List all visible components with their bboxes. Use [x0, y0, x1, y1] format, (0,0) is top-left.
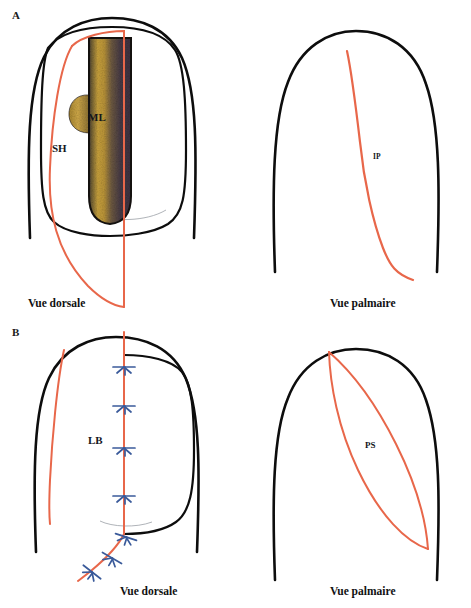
chevron-mark-icon [113, 367, 135, 375]
chevron-mark-icon [113, 406, 135, 414]
panel-b-palmar-drawing [274, 349, 439, 580]
red-curve-left-a-dorsal [50, 46, 124, 307]
sh-region-a-dorsal [69, 95, 89, 133]
figure-root: A B ML SH IP LB PS Vue dorsale Vue palma… [0, 0, 471, 608]
ml-region-a-dorsal [88, 36, 133, 228]
red-curve-top-right-a-dorsal [72, 31, 124, 307]
lunula-arc-a-dorsal [92, 210, 166, 220]
panel-b-dorsal-drawing [35, 332, 199, 585]
panel-letter-a: A [12, 9, 20, 21]
outline-outer-a-palmar [274, 31, 439, 272]
lunula-arc-b-dorsal [100, 521, 152, 526]
outline-nail-plate-b-dorsal [124, 355, 194, 534]
label-lb: LB [88, 434, 103, 446]
chevron-marks-group-b-dorsal [78, 367, 136, 585]
red-curve-left-b-dorsal [49, 350, 64, 524]
chevron-mark-icon [113, 448, 135, 456]
outline-outer-b-palmar [274, 349, 439, 580]
outline-nail-plate-a-dorsal [41, 27, 186, 236]
red-curve-ps-outer-b-palmar [329, 352, 428, 549]
chevron-mark-icon [113, 534, 136, 548]
caption-b-dorsal: Vue dorsale [120, 585, 177, 597]
red-curve-main-b-dorsal [78, 332, 124, 581]
red-curve-ps-inner-b-palmar [329, 352, 428, 549]
label-ip: IP [373, 152, 381, 161]
caption-b-palmar: Vue palmaire [330, 585, 396, 597]
caption-a-dorsal: Vue dorsale [28, 297, 85, 309]
panel-a-palmar-drawing [274, 31, 439, 280]
outline-outer-b-dorsal [35, 337, 199, 552]
chevron-mark-icon [98, 553, 121, 571]
caption-a-palmar: Vue palmaire [330, 297, 396, 309]
label-sh: SH [52, 142, 67, 154]
panel-a-dorsal-drawing [29, 18, 196, 307]
panel-letter-b: B [12, 326, 20, 338]
outline-outer-a-dorsal [29, 18, 196, 238]
red-curve-ip-a-palmar [347, 51, 413, 280]
chevron-mark-icon [113, 496, 135, 504]
label-ml: ML [88, 111, 106, 123]
label-ps: PS [365, 440, 376, 450]
chevron-mark-icon [78, 565, 100, 585]
